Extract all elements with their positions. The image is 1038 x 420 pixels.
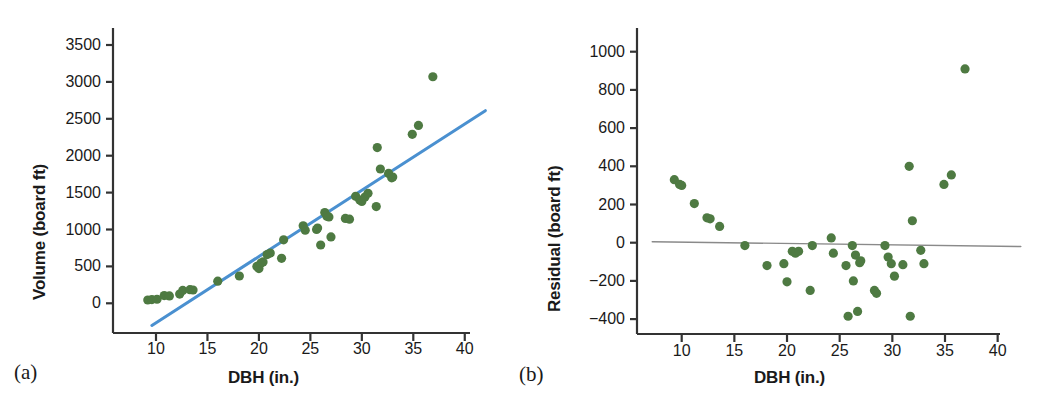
x-tick-label: 15 bbox=[199, 340, 217, 357]
y-tick-label: 2500 bbox=[65, 110, 101, 127]
panel-label-b: (b) bbox=[519, 362, 544, 387]
data-point bbox=[715, 222, 724, 231]
data-point bbox=[326, 232, 335, 241]
data-point bbox=[880, 241, 889, 250]
data-point bbox=[856, 256, 865, 265]
data-point bbox=[849, 276, 858, 285]
data-point bbox=[939, 180, 948, 189]
data-point bbox=[782, 277, 791, 286]
data-point bbox=[853, 307, 862, 316]
data-point bbox=[848, 241, 857, 250]
x-tick-label: 30 bbox=[353, 340, 371, 357]
data-point bbox=[844, 312, 853, 321]
data-point bbox=[898, 260, 907, 269]
data-point bbox=[301, 226, 310, 235]
data-point bbox=[740, 241, 749, 250]
least-squares-regression-line bbox=[152, 111, 485, 326]
y-tick-label: 3500 bbox=[65, 36, 101, 53]
data-point bbox=[677, 181, 686, 190]
data-point bbox=[906, 312, 915, 321]
y-tick-label: 1500 bbox=[65, 184, 101, 201]
data-point bbox=[706, 214, 715, 223]
data-point bbox=[316, 240, 325, 249]
y-tick-label: 0 bbox=[616, 234, 625, 251]
data-point bbox=[829, 249, 838, 258]
data-point bbox=[779, 259, 788, 268]
data-point bbox=[762, 261, 771, 270]
x-tick-label: 10 bbox=[147, 340, 165, 357]
y-tick-label: 400 bbox=[598, 157, 625, 174]
data-point bbox=[235, 271, 244, 280]
y-tick-label: 3000 bbox=[65, 73, 101, 90]
x-tick-label: 40 bbox=[456, 340, 474, 357]
y-tick-label: 600 bbox=[598, 119, 625, 136]
data-point bbox=[279, 235, 288, 244]
y-axis-title: Volume (board ft) bbox=[30, 164, 50, 300]
data-point bbox=[345, 215, 354, 224]
data-point bbox=[188, 285, 197, 294]
y-tick-label: −400 bbox=[589, 310, 625, 327]
x-tick-label: 35 bbox=[936, 342, 954, 359]
x-tick-label: 20 bbox=[250, 340, 268, 357]
data-point bbox=[428, 72, 437, 81]
y-tick-label: 800 bbox=[598, 81, 625, 98]
data-point bbox=[213, 277, 222, 286]
data-point bbox=[165, 291, 174, 300]
data-point bbox=[890, 272, 899, 281]
data-point bbox=[908, 216, 917, 225]
x-axis-title: DBH (in.) bbox=[228, 368, 299, 388]
x-tick-label: 30 bbox=[883, 342, 901, 359]
x-tick-label: 15 bbox=[725, 342, 743, 359]
data-point bbox=[887, 259, 896, 268]
y-tick-label: 1000 bbox=[65, 221, 101, 238]
x-tick-label: 20 bbox=[778, 342, 796, 359]
data-point bbox=[827, 233, 836, 242]
panel-b-residual-vs-dbh: −400−2000200400600800100010152025303540 … bbox=[519, 0, 1038, 420]
y-tick-label: −200 bbox=[589, 272, 625, 289]
panel-label-a: (a) bbox=[14, 360, 37, 385]
x-tick-label: 40 bbox=[989, 342, 1007, 359]
data-point bbox=[919, 259, 928, 268]
x-tick-label: 25 bbox=[301, 340, 319, 357]
data-point bbox=[266, 249, 275, 258]
data-point bbox=[363, 189, 372, 198]
y-tick-label: 1000 bbox=[589, 43, 625, 60]
data-point bbox=[373, 143, 382, 152]
data-point bbox=[808, 241, 817, 250]
data-point bbox=[376, 164, 385, 173]
data-point bbox=[408, 130, 417, 139]
scatterplot-figure: 0500100015002000250030003500101520253035… bbox=[0, 0, 1038, 420]
y-axis-title: Residual (board ft) bbox=[545, 166, 565, 312]
data-point bbox=[947, 170, 956, 179]
data-point bbox=[872, 289, 881, 298]
data-point bbox=[960, 64, 969, 73]
data-point bbox=[916, 246, 925, 255]
data-point bbox=[806, 286, 815, 295]
data-point bbox=[690, 199, 699, 208]
data-point bbox=[414, 121, 423, 130]
data-point bbox=[372, 202, 381, 211]
data-point bbox=[388, 173, 397, 182]
y-tick-label: 2000 bbox=[65, 147, 101, 164]
y-tick-label: 0 bbox=[92, 294, 101, 311]
panel-a-plot-area: 0500100015002000250030003500101520253035… bbox=[0, 0, 519, 420]
data-point bbox=[324, 212, 333, 221]
data-point bbox=[841, 261, 850, 270]
panel-b-plot-area: −400−2000200400600800100010152025303540 bbox=[519, 0, 1038, 420]
panel-a-volume-vs-dbh: 0500100015002000250030003500101520253035… bbox=[0, 0, 519, 420]
x-tick-label: 35 bbox=[404, 340, 422, 357]
x-tick-label: 10 bbox=[673, 342, 691, 359]
data-point bbox=[313, 223, 322, 232]
x-axis-title: DBH (in.) bbox=[754, 368, 825, 388]
data-point bbox=[277, 254, 286, 263]
data-point bbox=[905, 162, 914, 171]
y-tick-label: 500 bbox=[74, 257, 101, 274]
x-tick-label: 25 bbox=[831, 342, 849, 359]
data-point bbox=[794, 247, 803, 256]
y-tick-label: 200 bbox=[598, 196, 625, 213]
zero-residual-line bbox=[652, 242, 1021, 247]
